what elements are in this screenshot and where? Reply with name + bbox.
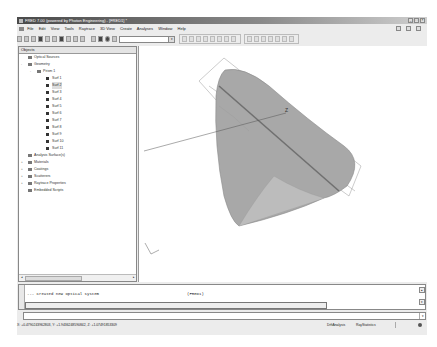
- menu-help[interactable]: Help: [178, 26, 186, 31]
- wand-icon[interactable]: [80, 36, 85, 42]
- view1-icon[interactable]: [189, 36, 194, 42]
- trace2-icon[interactable]: [254, 36, 259, 42]
- chevron-down-icon[interactable]: ▾: [419, 313, 425, 319]
- trace6-icon[interactable]: [282, 36, 287, 42]
- collapse-icon[interactable]: -: [21, 63, 24, 66]
- menu-3d-view[interactable]: 3D View: [100, 26, 115, 31]
- view2-icon[interactable]: [196, 36, 201, 42]
- tree-item[interactable]: Optical Sources: [19, 54, 136, 61]
- trace7-icon[interactable]: [289, 36, 294, 42]
- help-icon[interactable]: [73, 36, 78, 42]
- new-icon[interactable]: [17, 36, 22, 42]
- doc-restore-button[interactable]: [406, 26, 411, 31]
- print-icon[interactable]: [66, 36, 71, 42]
- tree-item[interactable]: Surf 1: [19, 75, 136, 82]
- zoom-icon[interactable]: [91, 36, 96, 42]
- arrow-left-icon[interactable]: [217, 36, 222, 42]
- expand-icon[interactable]: +: [21, 182, 24, 185]
- output-vertical-scrollbar[interactable]: ▴ ▾: [419, 287, 424, 307]
- trace4-icon[interactable]: [268, 36, 273, 42]
- menu-edit[interactable]: Edit: [39, 26, 46, 31]
- tree-item[interactable]: +Coatings: [19, 166, 136, 173]
- surface-icon: [46, 77, 49, 80]
- chevron-down-icon[interactable]: ▾: [168, 37, 174, 42]
- scroll-left-icon[interactable]: ◂: [19, 275, 24, 280]
- tree-item-label: Surf 1: [52, 75, 62, 82]
- copy-icon[interactable]: [52, 36, 57, 42]
- expand-icon[interactable]: +: [21, 161, 24, 164]
- tree-item[interactable]: +Scatterers: [19, 173, 136, 180]
- document-icon[interactable]: [19, 27, 24, 31]
- tree-item[interactable]: +Materials: [19, 159, 136, 166]
- folder-icon: [28, 189, 32, 192]
- expand-icon[interactable]: +: [21, 175, 24, 178]
- tree-item-label: Surf 2: [52, 82, 62, 89]
- trace1-icon[interactable]: [247, 36, 252, 42]
- tree-item[interactable]: Surf 2: [19, 82, 136, 89]
- scroll-down-icon[interactable]: ▾: [419, 299, 425, 305]
- tree-item-label: Surf 4: [52, 96, 62, 103]
- tree-item[interactable]: Surf 7: [19, 117, 136, 124]
- view-toolbar: [179, 34, 241, 44]
- trace3-icon[interactable]: [261, 36, 266, 42]
- tree-item[interactable]: +Raytrace Properties: [19, 180, 136, 187]
- tree-item[interactable]: Surf 6: [19, 110, 136, 117]
- output-horizontal-scrollbar[interactable]: [25, 302, 327, 309]
- assembly-icon: [37, 70, 41, 73]
- view4-icon[interactable]: [210, 36, 215, 42]
- folder-icon: [28, 161, 32, 164]
- menu-analyses[interactable]: Analyses: [137, 26, 153, 31]
- scroll-right-icon[interactable]: ▸: [131, 275, 136, 280]
- surface-alt-icon: [46, 133, 49, 136]
- tree-item-label: Surf 9: [52, 131, 62, 138]
- menu-raytrace[interactable]: Raytrace: [79, 26, 95, 31]
- doc-minimize-button[interactable]: [396, 26, 401, 31]
- render-icon[interactable]: [98, 36, 103, 42]
- tree-horizontal-scrollbar[interactable]: ◂ ▸: [19, 274, 136, 281]
- tree-item[interactable]: Surf 10: [19, 138, 136, 145]
- arrow-right-icon[interactable]: [224, 36, 229, 42]
- tree-item-label: Geometry: [34, 61, 50, 68]
- collapse-icon[interactable]: -: [30, 70, 33, 73]
- select-icon[interactable]: [182, 36, 187, 42]
- scroll-thumb[interactable]: [25, 276, 82, 281]
- command-input[interactable]: ▾: [23, 312, 426, 320]
- globe-icon[interactable]: [105, 36, 110, 42]
- paste-icon[interactable]: [59, 36, 64, 42]
- tree-item[interactable]: Surf 8: [19, 124, 136, 131]
- menu-view[interactable]: View: [51, 26, 60, 31]
- tree-item[interactable]: Surf 9: [19, 131, 136, 138]
- grid-icon[interactable]: [112, 36, 117, 42]
- 3d-viewport[interactable]: Z: [138, 46, 428, 282]
- tree-item[interactable]: -Geometry: [19, 61, 136, 68]
- expand-icon[interactable]: +: [21, 168, 24, 171]
- tree-item[interactable]: Embedded Scripts: [19, 187, 136, 194]
- menu-tools[interactable]: Tools: [64, 26, 73, 31]
- trace5-icon[interactable]: [275, 36, 280, 42]
- output-window[interactable]: --- Created new optical system (FRED1) ▴…: [18, 284, 426, 310]
- menu-window[interactable]: Window: [158, 26, 172, 31]
- scroll-up-icon[interactable]: ▴: [419, 287, 425, 293]
- open-folder-icon[interactable]: [31, 36, 36, 42]
- tree-item-label: Surf 5: [52, 103, 62, 110]
- save-icon[interactable]: [38, 36, 43, 42]
- tree-item[interactable]: Analysis Surface(s): [19, 152, 136, 159]
- tree-item[interactable]: Surf 11: [19, 145, 136, 152]
- close-button[interactable]: ×: [420, 18, 425, 23]
- toolbar: ▾: [17, 34, 427, 44]
- toolbar-combo[interactable]: ▾: [119, 36, 175, 43]
- maximize-button[interactable]: □: [414, 18, 419, 23]
- tree-item[interactable]: Surf 4: [19, 96, 136, 103]
- doc-close-button[interactable]: [416, 26, 421, 31]
- tree-item[interactable]: Surf 5: [19, 103, 136, 110]
- menu-bar: File Edit View Tools Raytrace 3D View Cr…: [17, 25, 427, 33]
- cut-icon[interactable]: [45, 36, 50, 42]
- open-icon[interactable]: [24, 36, 29, 42]
- axes-icon[interactable]: [231, 36, 236, 42]
- tree-item[interactable]: -Prism 1: [19, 68, 136, 75]
- menu-create[interactable]: Create: [120, 26, 132, 31]
- tree-item[interactable]: Surf 3: [19, 89, 136, 96]
- menu-file[interactable]: File: [27, 26, 33, 31]
- view3-icon[interactable]: [203, 36, 208, 42]
- minimize-button[interactable]: _: [408, 18, 413, 23]
